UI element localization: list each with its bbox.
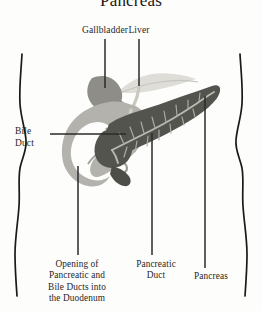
torso-outline-right (236, 54, 247, 296)
label-liver: Liver (116, 25, 162, 37)
label-opening-of-ducts: Opening of Pancreatic and Bile Ducts int… (21, 259, 133, 304)
pancreas-anatomical-figure: Pancreas Gallbladder Liver Bile Duct Ope… (0, 0, 262, 311)
label-pancreas: Pancreas (180, 271, 242, 282)
figure-title: Pancreas (0, 0, 262, 12)
label-bile-duct: Bile Duct (15, 126, 49, 149)
label-pancreatic-duct: Pancreatic Duct (126, 259, 186, 282)
liver-shape (118, 73, 196, 93)
